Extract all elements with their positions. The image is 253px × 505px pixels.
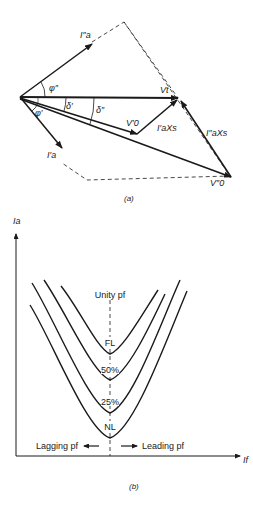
v0-double-label: V″0 — [210, 178, 224, 188]
phi-double-arc — [41, 82, 45, 97]
v0-double-phasor — [20, 99, 231, 177]
delta-single-label: δ′ — [66, 101, 73, 111]
ia-single-label: I′a — [47, 150, 56, 160]
vt-phasor — [20, 97, 178, 98]
phi-double-label: φ″ — [49, 83, 59, 93]
curve-label-fl: FL — [105, 338, 116, 348]
leading-pf-label: Leading pf — [142, 441, 185, 451]
figure: I″a φ″ δ′ δ″ φ′ I′a Vt V′0 I′aXs I″aXs V… — [0, 0, 253, 505]
curve-label-50: 50% — [101, 365, 119, 375]
ia-double-label: I″a — [80, 30, 91, 40]
curve-label-25: 25% — [101, 397, 119, 407]
lagging-pf-label: Lagging pf — [36, 441, 79, 451]
caption-a: (a) — [124, 194, 134, 203]
ia-single-xs-label: I′aXs — [157, 123, 177, 133]
phi-single-label: φ′ — [35, 108, 43, 118]
unity-pf-label: Unity pf — [95, 290, 126, 300]
delta-double-label: δ″ — [96, 105, 105, 115]
y-axis-label: Ia — [13, 216, 21, 226]
x-axis-label: If — [243, 455, 250, 465]
v-curves-chart: Ia If Unity pf FL 50% 25% NL Lagging pf … — [13, 216, 250, 491]
phasor-diagram: I″a φ″ δ′ δ″ φ′ I′a Vt V′0 I′aXs I″aXs V… — [20, 22, 231, 203]
dashed-locus — [62, 22, 230, 180]
curve-label-nl: NL — [104, 422, 116, 432]
vt-label: Vt — [160, 85, 169, 95]
ia-double-xs-label: I″aXs — [206, 128, 228, 138]
v0-single-label: V′0 — [126, 118, 139, 128]
ia-double-xs-phasor — [181, 101, 231, 177]
caption-b: (b) — [129, 482, 139, 491]
